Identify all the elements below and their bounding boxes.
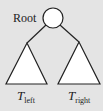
- left-subtree-label: Tleft: [17, 88, 36, 105]
- binary-tree-diagram: Root Tleft Tright: [0, 0, 103, 111]
- edge-root-left: [27, 25, 46, 43]
- root-label: Root: [13, 11, 37, 25]
- right-subtree-label: Tright: [68, 88, 91, 105]
- edge-root-right: [60, 25, 79, 42]
- right-subtree-triangle: [58, 42, 100, 84]
- left-subtree-triangle: [6, 43, 47, 84]
- root-node: [43, 8, 63, 28]
